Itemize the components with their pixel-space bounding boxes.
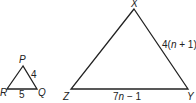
side-label-rq: 5 [19,89,25,100]
side-label-zy-rest: − 1 [124,91,141,102]
side-label-zy: 7n − 1 [113,91,142,102]
triangle-pqr: P R Q 4 5 [0,54,46,100]
similar-triangles-diagram: P R Q 4 5 X Z Y 4(n + 1) 7n − 1 [0,0,196,103]
side-label-pq: 4 [31,69,37,80]
vertex-label-x: X [130,0,138,9]
triangle-xyz: X Z Y 4(n + 1) 7n − 1 [62,0,196,102]
vertex-label-r: R [0,87,7,98]
vertex-label-p: P [19,54,26,65]
vertex-label-q: Q [38,87,46,98]
side-label-xy: 4(n + 1) [162,39,196,50]
side-label-xy-rest: + 1) [176,39,196,50]
vertex-label-z: Z [62,91,70,102]
vertex-label-y: Y [187,91,195,102]
